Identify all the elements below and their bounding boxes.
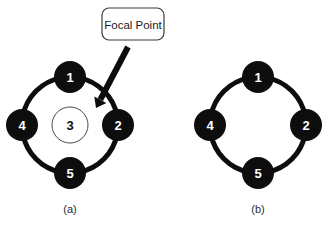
ring-node-5[interactable]: 5: [242, 157, 274, 189]
ring-node-label: 2: [114, 118, 121, 133]
figure-container: 3 1254 (a) 1254 (b) Focal Point: [0, 0, 329, 227]
caption-a: (a): [63, 203, 76, 215]
ring-node-4[interactable]: 4: [194, 109, 226, 141]
ring-node-label: 1: [254, 70, 261, 85]
ring-node-1[interactable]: 1: [242, 61, 274, 93]
ring-node-label: 4: [18, 118, 26, 133]
center-node-label: 3: [66, 118, 73, 133]
ring-diagram-figure: 3 1254 (a) 1254 (b) Focal Point: [0, 0, 329, 227]
ring-node-2[interactable]: 2: [290, 109, 322, 141]
ring-node-5[interactable]: 5: [54, 157, 86, 189]
ring-node-4[interactable]: 4: [6, 109, 38, 141]
ring-node-label: 5: [66, 166, 73, 181]
focal-point-callout-label: Focal Point: [104, 19, 162, 31]
ring-node-label: 5: [254, 166, 261, 181]
ring-node-1[interactable]: 1: [54, 61, 86, 93]
caption-b: (b): [251, 203, 264, 215]
ring-node-label: 1: [66, 70, 73, 85]
ring-node-label: 2: [302, 118, 309, 133]
focal-point-callout[interactable]: Focal Point: [102, 8, 164, 40]
center-node-3: 3: [52, 107, 88, 143]
ring-node-label: 4: [206, 118, 214, 133]
ring-node-2[interactable]: 2: [102, 109, 134, 141]
